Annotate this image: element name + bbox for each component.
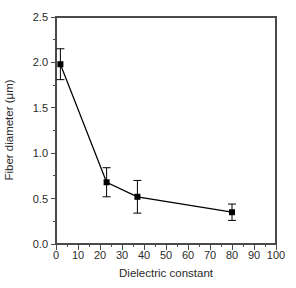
y-tick-label: 1.0	[33, 147, 48, 159]
square-marker	[104, 179, 110, 185]
y-tick-label: 0.5	[33, 193, 48, 205]
x-tick-label: 50	[160, 249, 172, 261]
x-tick-label: 70	[204, 249, 216, 261]
data-point-group	[133, 180, 141, 213]
chart-canvas: 01020304050607080901000.00.51.01.52.02.5…	[0, 0, 296, 288]
x-tick-label: 10	[72, 249, 84, 261]
x-tick-label: 40	[138, 249, 150, 261]
y-tick-label: 2.5	[33, 11, 48, 23]
data-series	[56, 49, 236, 221]
data-point-group	[228, 204, 236, 220]
square-marker	[134, 194, 140, 200]
x-axis-title: Dielectric constant	[119, 267, 214, 279]
axis-ticks	[51, 17, 277, 250]
y-tick-label: 2.0	[33, 56, 48, 68]
axis-tick-labels: 01020304050607080901000.00.51.01.52.02.5	[33, 11, 285, 261]
plot-border	[56, 17, 276, 244]
figure: 01020304050607080901000.00.51.01.52.02.5…	[0, 0, 296, 288]
y-axis-title: Fiber diameter (μm)	[3, 79, 15, 180]
x-tick-label: 30	[116, 249, 128, 261]
y-tick-label: 1.5	[33, 102, 48, 114]
series-line	[60, 64, 232, 212]
data-point-group	[103, 168, 111, 197]
x-tick-label: 20	[94, 249, 106, 261]
x-tick-label: 80	[226, 249, 238, 261]
data-point-group	[56, 49, 64, 80]
plot-frame	[56, 17, 276, 244]
x-tick-label: 0	[53, 249, 59, 261]
square-marker	[229, 209, 235, 215]
x-tick-label: 100	[267, 249, 285, 261]
square-marker	[57, 61, 63, 67]
y-tick-label: 0.0	[33, 238, 48, 250]
x-tick-label: 60	[182, 249, 194, 261]
x-tick-label: 90	[248, 249, 260, 261]
